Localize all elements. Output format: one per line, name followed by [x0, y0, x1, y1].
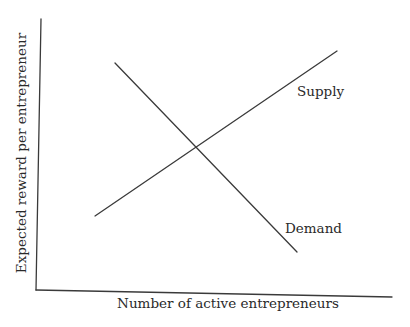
demand-label: Demand — [285, 220, 342, 236]
supply-demand-diagram: Supply Demand Number of active entrepren… — [0, 0, 410, 327]
x-axis-label: Number of active entrepreneurs — [117, 295, 339, 311]
supply-curve — [95, 51, 337, 216]
y-axis — [36, 19, 41, 290]
supply-label: Supply — [297, 83, 345, 99]
y-axis-label: Expected reward per entrepreneur — [13, 32, 29, 273]
demand-curve — [115, 63, 297, 252]
